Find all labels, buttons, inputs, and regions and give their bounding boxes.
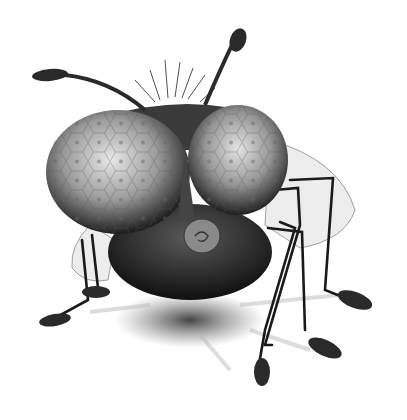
foot: [335, 286, 374, 313]
fly-drawing: [0, 0, 407, 420]
antennae: [32, 26, 250, 110]
foot: [254, 358, 270, 386]
right-eye: [188, 105, 288, 215]
foot: [305, 333, 344, 363]
fly-illustration: [0, 0, 407, 420]
left-eye: [46, 110, 190, 234]
foot: [82, 286, 110, 298]
foot: [38, 311, 72, 328]
bristles: [135, 60, 215, 102]
shadow: [115, 292, 265, 348]
